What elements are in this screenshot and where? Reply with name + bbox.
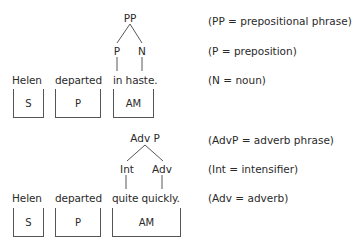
tree-node-root: Adv P — [130, 132, 160, 144]
annotation: (Adv = adverb) — [208, 192, 288, 204]
tree-node-right: Adv — [152, 163, 172, 175]
box-subject: S — [13, 89, 44, 118]
annotation: (Int = intensifier) — [208, 163, 298, 175]
word-verb: departed — [55, 192, 102, 204]
box-label: AM — [113, 217, 180, 229]
tree-node-left: P — [114, 45, 120, 57]
box-verb: P — [55, 89, 101, 118]
box-adverbial: AM — [112, 208, 181, 237]
annotation: (N = noun) — [208, 74, 266, 86]
word-verb: departed — [55, 74, 102, 86]
annotation: (P = preposition) — [208, 45, 297, 57]
box-label: S — [14, 98, 43, 110]
box-label: P — [56, 98, 100, 110]
box-label: AM — [114, 98, 153, 110]
word-subject: Helen — [12, 74, 42, 86]
tree-node-root: PP — [124, 12, 137, 24]
word-adverbial: in haste. — [113, 74, 157, 86]
box-label: P — [56, 217, 100, 229]
box-adverbial: AM — [113, 89, 154, 118]
word-subject: Helen — [12, 192, 42, 204]
annotation: (PP = prepositional phrase) — [208, 15, 352, 27]
tree-node-right: N — [138, 45, 146, 57]
word-adverbial: quite quickly. — [112, 192, 180, 204]
box-verb: P — [55, 208, 101, 237]
tree-node-left: Int — [120, 163, 134, 175]
box-label: S — [14, 217, 43, 229]
box-subject: S — [13, 208, 44, 237]
annotation: (AdvP = adverb phrase) — [208, 134, 334, 146]
